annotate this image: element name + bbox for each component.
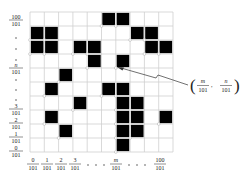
lattice-point [43, 53, 46, 56]
lattice-point [72, 53, 75, 56]
lattice-diagram: 100101n1013101210111010101 0101110121013… [0, 0, 252, 176]
lattice-point [129, 109, 132, 112]
annotation-n: n [225, 78, 228, 84]
filled-cell [117, 13, 130, 25]
annotation-comma: , [211, 82, 213, 88]
svg-text:101: 101 [12, 110, 21, 116]
filled-cell [117, 139, 130, 151]
svg-text:2: 2 [15, 117, 18, 123]
svg-text:101: 101 [43, 165, 52, 171]
lattice-point [114, 67, 117, 70]
filled-cell [131, 97, 144, 109]
filled-cell [45, 83, 58, 95]
filled-cell [145, 41, 158, 53]
filled-cell [117, 125, 130, 137]
y-axis-labels: 100101n1013101210111010101 [9, 14, 23, 159]
svg-text:0: 0 [32, 157, 35, 163]
svg-text:n: n [15, 62, 18, 68]
filled-cell [160, 111, 173, 123]
filled-cell [74, 41, 87, 53]
lattice-point [143, 53, 146, 56]
x-axis-labels: 0101110121013101m101100101 [27, 157, 166, 171]
svg-text:3: 3 [15, 103, 18, 109]
filled-cell [117, 97, 130, 109]
lattice-point [157, 123, 160, 126]
svg-text:3: 3 [74, 157, 77, 163]
left-paren: ( [190, 76, 196, 95]
lattice-point [43, 39, 46, 42]
point-annotation: ( m 101 , n 101 ) [190, 76, 240, 95]
svg-text:101: 101 [12, 21, 21, 27]
lattice-point [129, 123, 132, 126]
filled-cell [45, 41, 58, 53]
svg-text:2: 2 [60, 157, 63, 163]
svg-text:0: 0 [15, 145, 18, 151]
lattice-point [114, 137, 117, 140]
svg-text:100: 100 [156, 157, 165, 163]
svg-text:101: 101 [71, 165, 80, 171]
svg-text:101: 101 [29, 165, 38, 171]
svg-text:100: 100 [12, 14, 21, 20]
filled-cell [117, 55, 130, 67]
lattice-point [86, 53, 89, 56]
filled-cell [45, 27, 58, 39]
filled-cell [31, 27, 44, 39]
lattice-point [114, 151, 117, 154]
lattice-point [114, 123, 117, 126]
lattice-point [157, 53, 160, 56]
svg-text:101: 101 [112, 165, 121, 171]
svg-text:101: 101 [12, 138, 21, 144]
svg-text:101: 101 [12, 124, 21, 130]
filled-cell [131, 111, 144, 123]
annotation-m: m [201, 78, 206, 84]
lattice-point [43, 95, 46, 98]
annotation-den-1: 101 [199, 87, 208, 93]
annotation-den-2: 101 [222, 87, 231, 93]
svg-text:m: m [114, 157, 119, 163]
filled-cell [88, 41, 101, 53]
lattice-point [100, 95, 103, 98]
lattice-point [114, 109, 117, 112]
lattice-point [86, 67, 89, 70]
lattice-point [129, 137, 132, 140]
lattice-point [57, 137, 60, 140]
lattice-point [114, 25, 117, 28]
filled-cell [31, 41, 44, 53]
filled-cell [74, 97, 87, 109]
lattice-point [72, 109, 75, 112]
filled-cell [59, 125, 72, 137]
svg-text:101: 101 [12, 69, 21, 75]
svg-text:101: 101 [12, 152, 21, 158]
svg-text:1: 1 [46, 157, 49, 163]
arrowhead-icon [117, 67, 124, 71]
lattice-point [29, 53, 32, 56]
svg-text:1: 1 [15, 131, 18, 137]
filled-cell [117, 111, 130, 123]
filled-cell [160, 41, 173, 53]
lattice-point [129, 39, 132, 42]
filled-cell [59, 69, 72, 81]
right-paren: ) [234, 76, 240, 95]
filled-cell [145, 27, 158, 39]
filled-cell [102, 83, 115, 95]
lattice-point [43, 123, 46, 126]
filled-cell [117, 83, 130, 95]
lattice-point [114, 95, 117, 98]
lattice-point [100, 25, 103, 28]
filled-cell [45, 111, 58, 123]
filled-cell [131, 27, 144, 39]
lattice-point [29, 39, 32, 42]
svg-text:101: 101 [156, 165, 165, 171]
lattice-point [143, 39, 146, 42]
filled-cell [102, 13, 115, 25]
filled-cell [88, 55, 101, 67]
svg-text:101: 101 [57, 165, 66, 171]
filled-cell [131, 125, 144, 137]
lattice-point [57, 81, 60, 84]
